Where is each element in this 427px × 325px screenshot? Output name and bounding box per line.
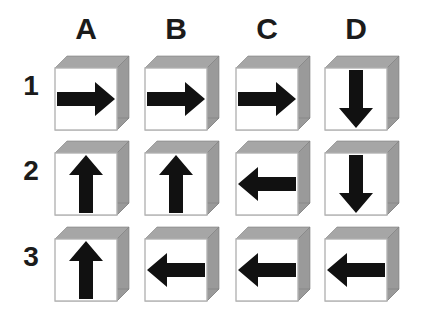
arrow-cube-grid: ABCD123 (0, 0, 427, 325)
cube-top-face (55, 227, 129, 239)
column-header-d: D (325, 14, 387, 44)
arrow-cube-d3 (325, 227, 399, 301)
arrow-cube-a1 (55, 56, 129, 130)
cube-top-face (55, 56, 129, 68)
cube-top-face (325, 141, 399, 153)
arrow-cube-b2 (145, 141, 219, 215)
row-header-2: 2 (14, 157, 48, 185)
column-header-b: B (145, 14, 207, 44)
arrow-cube-d1 (325, 56, 399, 130)
cube-top-face (325, 227, 399, 239)
column-header-c: C (236, 14, 298, 44)
cube-top-face (145, 56, 219, 68)
arrow-cube-a2 (55, 141, 129, 215)
column-header-a: A (55, 14, 117, 44)
cube-top-face (236, 56, 310, 68)
cube-top-face (55, 141, 129, 153)
cube-top-face (145, 141, 219, 153)
arrow-cube-b1 (145, 56, 219, 130)
row-header-1: 1 (14, 72, 48, 100)
cube-top-face (236, 141, 310, 153)
arrow-cube-b3 (145, 227, 219, 301)
cube-top-face (145, 227, 219, 239)
arrow-cube-c3 (236, 227, 310, 301)
arrow-cube-d2 (325, 141, 399, 215)
cube-top-face (236, 227, 310, 239)
row-header-3: 3 (14, 243, 48, 271)
arrow-cube-a3 (55, 227, 129, 301)
arrow-cube-c1 (236, 56, 310, 130)
arrow-cube-c2 (236, 141, 310, 215)
cube-top-face (325, 56, 399, 68)
